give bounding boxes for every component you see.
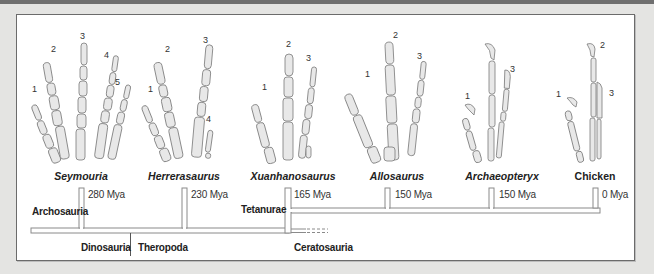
clade-label-tetanurae: Tetanurae bbox=[241, 204, 286, 216]
clade-label-ceratosauria: Ceratosauria bbox=[294, 242, 353, 254]
taxon-name-herrerasaurus: Herrerasaurus bbox=[148, 170, 220, 182]
hand-illustrations: .b { fill:#e8e8e8; stroke:#7a7a7a; strok… bbox=[0, 0, 654, 274]
clade-label-theropoda: Theropoda bbox=[138, 242, 188, 254]
taxon-name-archaeopteryx: Archaeopteryx bbox=[465, 170, 539, 182]
digit-label: 3 bbox=[609, 88, 614, 98]
digit-label: 1 bbox=[465, 91, 470, 101]
seymouria-hand-icon bbox=[30, 43, 131, 164]
digit-label: 2 bbox=[165, 44, 170, 54]
digit-label: 3 bbox=[203, 35, 208, 45]
digit-label: 4 bbox=[104, 50, 109, 60]
age-label: 150 Mya bbox=[395, 189, 432, 201]
herrerasaurus-hand-icon bbox=[141, 44, 214, 163]
taxon-name-chicken: Chicken bbox=[575, 170, 616, 182]
digit-label: 2 bbox=[51, 44, 56, 54]
digit-label: 2 bbox=[393, 30, 398, 40]
xuanhanosaurus-hand-icon bbox=[251, 54, 317, 165]
digit-label: 3 bbox=[510, 64, 515, 74]
age-label: 0 Mya bbox=[602, 189, 628, 201]
digit-label: 2 bbox=[600, 40, 605, 50]
digit-label: 1 bbox=[365, 69, 370, 79]
digit-label: 2 bbox=[286, 39, 291, 49]
taxon-name-allosaurus: Allosaurus bbox=[370, 170, 424, 182]
digit-label: 1 bbox=[262, 82, 267, 92]
digit-label: 3 bbox=[306, 53, 311, 63]
age-label: 150 Mya bbox=[499, 189, 536, 201]
digit-label: 3 bbox=[80, 31, 85, 41]
taxon-name-xuanhanosaurus: Xuanhanosaurus bbox=[250, 170, 335, 182]
digit-label: 1 bbox=[148, 84, 153, 94]
clade-label-archosauria: Archosauria bbox=[32, 206, 88, 218]
digit-label: 5 bbox=[115, 77, 120, 87]
age-label: 230 Mya bbox=[191, 189, 228, 201]
digit-label: 3 bbox=[417, 51, 422, 61]
taxon-name-seymouria: Seymouria bbox=[54, 170, 108, 182]
age-label: 280 Mya bbox=[88, 189, 125, 201]
digit-label: 4 bbox=[206, 114, 211, 124]
age-label: 165 Mya bbox=[294, 189, 331, 201]
archaeopteryx-hand-icon bbox=[462, 44, 511, 164]
chicken-hand-icon bbox=[565, 44, 602, 164]
allosaurus-hand-icon bbox=[344, 42, 427, 165]
digit-label: 1 bbox=[32, 84, 37, 94]
digit-label: 1 bbox=[556, 89, 561, 99]
clade-label-dinosauria: Dinosauria bbox=[81, 242, 131, 254]
